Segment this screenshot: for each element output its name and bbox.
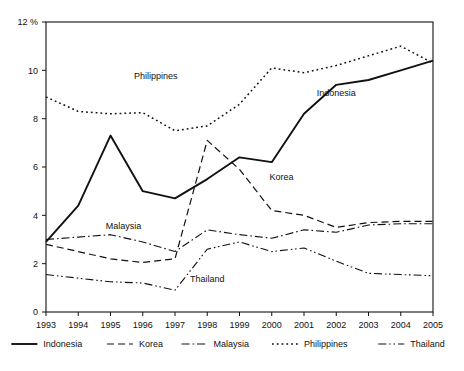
series-line-thailand (46, 242, 433, 290)
y-axis-label: 10 (28, 66, 38, 76)
series-inline-label-thailand: Thailand (190, 274, 225, 284)
x-axis-label: 2000 (262, 320, 282, 330)
plot-frame (46, 22, 433, 312)
x-axis-label: 2005 (423, 320, 443, 330)
legend-label-malaysia: Malaysia (214, 339, 250, 349)
x-axis-label: 1994 (68, 320, 88, 330)
x-axis-label: 2002 (326, 320, 346, 330)
y-axis-label: 12 % (17, 17, 38, 27)
series-inline-label-philippines: Philippines (134, 71, 178, 81)
y-axis-label: 4 (33, 211, 38, 221)
x-axis-label: 1999 (229, 320, 249, 330)
series-line-malaysia (46, 224, 433, 252)
series-line-korea (46, 140, 433, 262)
series-inline-label-korea: Korea (269, 172, 293, 182)
x-axis-label: 1995 (100, 320, 120, 330)
y-axis-label: 2 (33, 259, 38, 269)
x-axis-label: 2001 (294, 320, 314, 330)
x-axis-label: 1996 (133, 320, 153, 330)
y-axis-label: 6 (33, 162, 38, 172)
line-chart: 024681012 %19931994199519961997199819992… (0, 0, 464, 371)
series-line-indonesia (46, 61, 433, 242)
y-axis-label: 0 (33, 307, 38, 317)
x-axis-label: 2004 (391, 320, 411, 330)
series-line-philippines (46, 46, 433, 131)
x-axis-label: 1997 (165, 320, 185, 330)
legend-label-korea: Korea (139, 339, 163, 349)
series-inline-label-malaysia: Malaysia (106, 221, 142, 231)
legend-label-indonesia: Indonesia (43, 339, 82, 349)
x-axis-label: 2003 (358, 320, 378, 330)
chart-canvas: 024681012 %19931994199519961997199819992… (0, 0, 464, 371)
x-axis-label: 1998 (197, 320, 217, 330)
legend-label-thailand: Thailand (410, 339, 445, 349)
x-axis-label: 1993 (36, 320, 56, 330)
legend-label-philippines: Philippines (304, 339, 348, 349)
series-inline-label-indonesia: Indonesia (317, 88, 356, 98)
y-axis-label: 8 (33, 114, 38, 124)
